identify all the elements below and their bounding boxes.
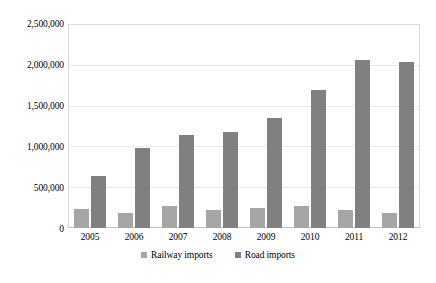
plot-area <box>68 24 420 228</box>
bar-railway-imports-2006 <box>118 213 133 228</box>
y-axis-labels: 2,500,000 2,000,000 1,500,000 1,000,000 … <box>0 0 64 283</box>
x-axis-tick-label: 2012 <box>376 231 420 243</box>
bar-group <box>288 24 332 228</box>
bar-group <box>244 24 288 228</box>
bar-railway-imports-2009 <box>250 208 265 228</box>
bar-railway-imports-2012 <box>382 213 397 229</box>
bar-railway-imports-2011 <box>338 210 353 228</box>
y-axis-tick-label: 2,500,000 <box>0 19 64 29</box>
bar-road-imports-2010 <box>311 90 326 228</box>
x-axis-tick-label: 2010 <box>288 231 332 243</box>
bar-road-imports-2007 <box>179 135 194 228</box>
legend-swatch-icon <box>235 252 241 258</box>
x-axis-tick-label: 2008 <box>200 231 244 243</box>
bar-group <box>200 24 244 228</box>
bar-road-imports-2005 <box>91 176 106 228</box>
x-axis-tick-label: 2007 <box>156 231 200 243</box>
chart-legend: Railway imports Road imports <box>0 250 436 260</box>
bar-road-imports-2009 <box>267 118 282 228</box>
bar-railway-imports-2005 <box>74 209 89 228</box>
legend-item-railway-imports: Railway imports <box>141 250 213 260</box>
bar-group <box>376 24 420 228</box>
y-axis-tick-label: 1,500,000 <box>0 101 64 111</box>
legend-label: Railway imports <box>151 250 213 260</box>
bar-road-imports-2012 <box>399 62 414 228</box>
bar-chart: 2,500,000 2,000,000 1,500,000 1,000,000 … <box>0 0 436 283</box>
bar-groups <box>68 24 420 228</box>
bar-group <box>156 24 200 228</box>
legend-label: Road imports <box>245 250 295 260</box>
y-axis-tick-label: 500,000 <box>0 183 64 193</box>
bar-road-imports-2008 <box>223 132 238 228</box>
y-axis-tick-label: 0 <box>0 224 64 234</box>
legend-item-road-imports: Road imports <box>235 250 295 260</box>
bar-group <box>68 24 112 228</box>
bar-group <box>332 24 376 228</box>
x-axis-tick-label: 2006 <box>112 231 156 243</box>
x-axis-tick-label: 2011 <box>332 231 376 243</box>
y-axis-tick-label: 2,000,000 <box>0 60 64 70</box>
y-axis-tick-label: 1,000,000 <box>0 142 64 152</box>
bar-railway-imports-2007 <box>162 206 177 228</box>
bar-railway-imports-2008 <box>206 210 221 228</box>
bar-group <box>112 24 156 228</box>
x-axis-tick-label: 2005 <box>68 231 112 243</box>
x-axis-labels: 20052006200720082009201020112012 <box>68 231 420 243</box>
bar-road-imports-2006 <box>135 148 150 228</box>
bar-road-imports-2011 <box>355 60 370 228</box>
bar-railway-imports-2010 <box>294 206 309 228</box>
x-axis-tick-label: 2009 <box>244 231 288 243</box>
legend-swatch-icon <box>141 252 147 258</box>
